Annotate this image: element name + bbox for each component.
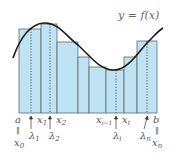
label-x0: x0 bbox=[14, 137, 25, 150]
label-lambda1: λ1 bbox=[28, 130, 40, 143]
label-b: b bbox=[153, 114, 159, 125]
bars bbox=[19, 24, 157, 113]
label-x1: x1 bbox=[37, 114, 47, 127]
bar-1 bbox=[19, 29, 41, 113]
axis-labels: a ‖ x0 x1 x2 xi−1 xi b ‖ xn λ1 λ2 λi λn bbox=[14, 114, 163, 150]
riemann-sum-diagram: y = f(x) a ‖ x0 x1 x2 xi−1 xi b ‖ xn λ1 … bbox=[0, 0, 175, 154]
label-lambda2: λ2 bbox=[48, 130, 60, 143]
curve-label: y = f(x) bbox=[117, 9, 159, 22]
label-xi: xi bbox=[122, 114, 130, 127]
label-equals-a: ‖ bbox=[16, 126, 20, 135]
label-a: a bbox=[15, 114, 21, 125]
bar-2 bbox=[41, 24, 57, 113]
label-x2: x2 bbox=[56, 114, 67, 127]
bar-5 bbox=[89, 67, 106, 113]
label-equals-b: ‖ bbox=[155, 126, 159, 135]
bar-6 bbox=[106, 70, 124, 113]
bar-3 bbox=[57, 42, 78, 113]
label-xn: xn bbox=[152, 137, 163, 150]
bar-4 bbox=[78, 57, 89, 113]
label-lambdan: λn bbox=[139, 130, 151, 143]
label-xi-minus-1: xi−1 bbox=[96, 114, 112, 126]
label-lambdai: λi bbox=[112, 130, 122, 143]
sample-arrows bbox=[30, 116, 149, 129]
